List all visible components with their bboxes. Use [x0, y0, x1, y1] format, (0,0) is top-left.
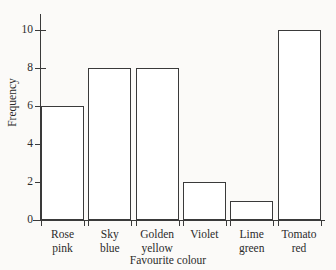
y-axis-tick-label: 2: [0, 176, 33, 187]
y-axis-title: Frequency: [6, 55, 19, 151]
bar: [278, 30, 321, 220]
x-axis-tick: [226, 220, 227, 226]
bar: [183, 182, 226, 220]
x-axis-tick: [41, 220, 42, 226]
bar-chart: 0246810 Frequency Rose pinkSky blueGolde…: [0, 0, 336, 270]
x-axis-tick: [278, 220, 279, 226]
bar: [230, 201, 273, 220]
x-axis-title: Favourite colour: [0, 254, 336, 267]
x-axis-category-label: Tomato red: [269, 228, 329, 255]
x-axis-tick: [273, 220, 274, 226]
bar: [88, 68, 131, 220]
y-axis-tick-label: 10: [0, 24, 33, 35]
x-axis-tick: [183, 220, 184, 226]
y-axis-tick: [35, 68, 46, 69]
x-axis-tick: [136, 220, 137, 226]
bar: [136, 68, 179, 220]
x-axis-tick: [88, 220, 89, 226]
y-axis-tick: [35, 30, 46, 31]
y-axis-tick-label: 0: [0, 214, 33, 225]
x-axis-tick: [321, 220, 322, 226]
x-axis-tick: [84, 220, 85, 226]
x-axis-tick: [230, 220, 231, 226]
x-axis-tick: [131, 220, 132, 226]
bar: [41, 106, 84, 220]
x-axis-tick: [179, 220, 180, 226]
